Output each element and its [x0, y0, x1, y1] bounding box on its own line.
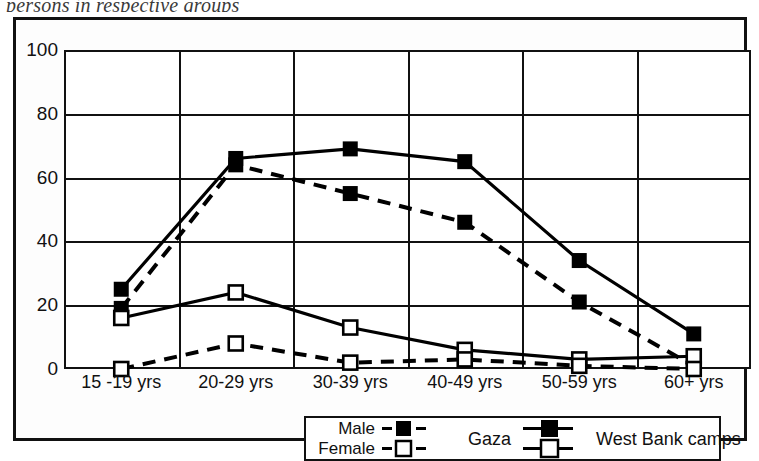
chart-legend: Male Female Gaza West Ban [304, 416, 721, 461]
data-point-marker [114, 282, 129, 297]
data-point-marker [343, 321, 357, 335]
y-axis: 020406080100 [16, 50, 64, 369]
series-line [121, 149, 694, 334]
legend-swatch-male-westbank [521, 418, 591, 439]
data-point-marker [343, 186, 358, 201]
data-point-marker [228, 157, 243, 172]
y-tick-label: 100 [20, 39, 64, 61]
y-tick-label: 80 [20, 103, 64, 125]
data-point-marker [229, 336, 243, 350]
data-point-marker [686, 326, 701, 341]
legend-swatch-female-westbank [521, 438, 591, 459]
data-point-marker [458, 352, 472, 366]
series-line [121, 165, 694, 366]
legend-label-female: Female [306, 439, 380, 459]
data-point-marker [572, 253, 587, 268]
legend-swatch-female-gaza [380, 438, 450, 459]
data-point-marker [114, 311, 128, 325]
x-axis: 15 -19 yrs20-29 yrs30-39 yrs40-49 yrs50-… [64, 372, 751, 398]
data-point-marker [572, 359, 586, 373]
legend-swatch-male-gaza [380, 418, 450, 439]
x-tick-label: 50-59 yrs [542, 372, 617, 393]
y-tick-label: 0 [20, 358, 64, 380]
legend-group-west-bank-camps: West Bank camps [596, 429, 741, 450]
legend-label-male: Male [306, 419, 380, 439]
y-tick-label: 40 [20, 230, 64, 252]
x-tick-label: 30-39 yrs [313, 372, 388, 393]
data-point-marker [457, 154, 472, 169]
series-layer [64, 50, 751, 369]
x-tick-label: 15 -19 yrs [81, 372, 161, 393]
data-point-marker [457, 215, 472, 230]
chart-frame: 020406080100 15 -19 yrs20-29 yrs30-39 yr… [13, 17, 747, 441]
x-tick-label: 40-49 yrs [427, 372, 502, 393]
page-caption: persons in respective groups [6, 0, 526, 12]
data-point-marker [343, 141, 358, 156]
data-point-marker [572, 295, 587, 310]
data-point-marker [343, 356, 357, 370]
legend-group-gaza: Gaza [468, 429, 511, 450]
y-tick-label: 60 [20, 167, 64, 189]
y-tick-label: 20 [20, 294, 64, 316]
data-point-marker [229, 285, 243, 299]
x-tick-label: 60+ yrs [664, 372, 724, 393]
series-line [121, 343, 694, 369]
x-tick-label: 20-29 yrs [198, 372, 273, 393]
